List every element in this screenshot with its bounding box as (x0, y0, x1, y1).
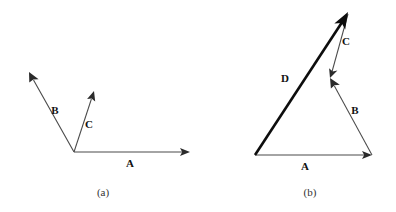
panel-b-caption: (b) (304, 186, 317, 199)
vector-a-label: A (126, 157, 134, 169)
vector-diagram: A B C (a) A B (0, 0, 396, 212)
vector-b-label: B (51, 104, 59, 116)
vector-a-label: A (301, 160, 309, 172)
vector-c-label: C (85, 118, 93, 130)
vector-c-label: C (342, 35, 350, 47)
vector-d-label: D (281, 72, 289, 84)
vector-b-label: B (351, 104, 359, 116)
panel-a-caption: (a) (97, 186, 110, 199)
